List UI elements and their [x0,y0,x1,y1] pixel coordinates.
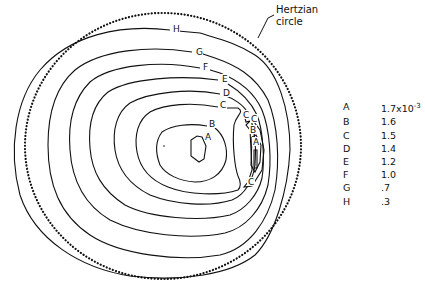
center-marker [163,145,165,147]
legend-value: .7 [381,181,425,194]
contour-legend: A1.7x10-3 B1.6 C1.5 D1.4 E1.2 F1.0 G.7 H… [343,100,425,208]
contour-label: B [209,119,215,129]
contour-label: F [203,62,208,72]
contour-c [136,104,241,194]
legend-key: E [343,155,381,168]
legend-row: C1.5 [343,129,425,142]
legend-row: B1.6 [343,115,425,128]
legend-row: F1.0 [343,168,425,181]
callout-line-1: Hertzian [276,4,318,16]
legend-key: H [343,195,381,208]
legend-row: E1.2 [343,155,425,168]
callout-line-2: circle [276,16,318,28]
legend-row: A1.7x10-3 [343,100,425,115]
contour-b [157,125,227,182]
legend-row: H.3 [343,195,425,208]
legend-key: D [343,142,381,155]
contour-label: H [173,24,180,34]
legend-row: D1.4 [343,142,425,155]
contour-label: A [205,132,212,142]
legend-key: A [343,100,381,115]
legend-key: C [343,129,381,142]
contour-label: A [253,137,260,147]
contour-label: C [220,100,226,110]
contour-label: E [222,74,228,84]
legend-key: B [343,115,381,128]
contour-h [14,28,290,278]
legend-value: 1.0 [381,168,425,181]
contour-label: C [248,177,254,187]
legend-key: F [343,168,381,181]
legend-row: G.7 [343,181,425,194]
contour-label: G [196,47,203,57]
legend-value: .3 [381,195,425,208]
contour-label: D [223,88,230,98]
legend-value: 1.4 [381,142,425,155]
hertzian-circle-callout: Hertzian circle [276,4,318,28]
legend-value: 1.2 [381,155,425,168]
contour-a [191,136,206,162]
contour-label: C [251,114,257,124]
legend-value: 1.7x10-3 [381,100,425,115]
callout-leader [258,15,274,38]
legend-key: G [343,181,381,194]
legend-value: 1.6 [381,115,425,128]
contour-label: B [250,125,256,135]
contour-g [48,49,278,258]
contour-label: C [243,110,249,120]
legend-value: 1.5 [381,129,425,142]
